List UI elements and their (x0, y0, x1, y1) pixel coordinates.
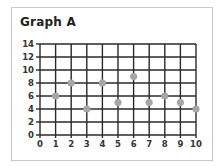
x-tick-label: 2 (68, 139, 74, 149)
scatter-chart: 02468101214 012345678910 (0, 0, 219, 166)
data-point (99, 79, 106, 86)
x-tick-label: 5 (115, 139, 121, 149)
y-axis-ticks: 02468101214 (22, 39, 40, 140)
x-tick-label: 8 (162, 139, 168, 149)
x-tick-label: 7 (146, 139, 152, 149)
y-tick-label: 0 (28, 130, 34, 140)
data-point (161, 92, 168, 99)
x-tick-label: 9 (177, 139, 183, 149)
data-point (192, 105, 199, 112)
y-tick-label: 14 (22, 39, 34, 49)
y-tick-label: 4 (28, 104, 34, 114)
y-tick-label: 6 (28, 91, 34, 101)
x-tick-label: 10 (190, 139, 202, 149)
x-axis-ticks: 012345678910 (37, 135, 202, 149)
data-points (52, 73, 200, 113)
y-tick-label: 10 (22, 65, 34, 75)
data-point (52, 92, 59, 99)
y-tick-label: 8 (28, 78, 34, 88)
data-point (177, 99, 184, 106)
x-tick-label: 1 (53, 139, 59, 149)
data-point (146, 99, 153, 106)
x-tick-label: 4 (99, 139, 105, 149)
data-point (83, 105, 90, 112)
y-tick-label: 2 (28, 117, 34, 127)
y-tick-label: 12 (22, 52, 34, 62)
x-tick-label: 3 (84, 139, 90, 149)
data-point (114, 99, 121, 106)
data-point (130, 73, 137, 80)
grid (40, 44, 196, 135)
x-tick-label: 6 (131, 139, 137, 149)
data-point (68, 79, 75, 86)
x-tick-label: 0 (37, 139, 43, 149)
